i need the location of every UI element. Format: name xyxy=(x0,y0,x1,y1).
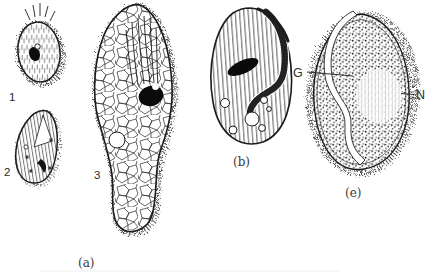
organism-1-vacuole xyxy=(35,44,40,49)
protozoa-figure: 1 2 3 (a) xyxy=(0,0,429,274)
caption-panel-e: (e) xyxy=(345,186,361,200)
annotation-g-label: G xyxy=(293,66,303,80)
label-organism-3: 3 xyxy=(94,169,100,181)
organism-3-contractile-vacuole xyxy=(109,132,125,148)
organism-1: 1 xyxy=(9,3,64,103)
label-organism-1: 1 xyxy=(9,91,15,103)
caption-panel-b: (b) xyxy=(233,155,250,169)
caption-panel-a: (a) xyxy=(78,256,95,270)
illustration-canvas: 1 2 3 (a) xyxy=(0,0,429,274)
organism-e: G N (e) xyxy=(293,11,426,200)
label-organism-2: 2 xyxy=(4,166,10,178)
organism-3-nucleus-notch xyxy=(152,83,159,90)
organism-e-nucleus-texture xyxy=(356,69,402,123)
organism-2: 2 xyxy=(4,111,57,184)
scan-artifact xyxy=(40,270,340,272)
organism-2-vacuole xyxy=(24,145,28,149)
organism-3: 3 xyxy=(94,5,172,232)
organism-b: (b) xyxy=(211,8,292,169)
organism-1-top-tuft xyxy=(25,3,55,21)
annotation-n-label: N xyxy=(416,88,426,102)
